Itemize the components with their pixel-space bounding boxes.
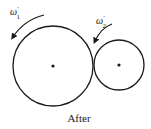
- omega2-label: ω′2: [96, 14, 107, 30]
- large-gear-center-dot: [51, 64, 54, 67]
- omega1-label: ω′1: [10, 5, 21, 21]
- small-gear-center-dot: [117, 63, 120, 66]
- caption-after: After: [67, 112, 91, 124]
- gear-diagram: ω′1 ω′2 After: [0, 0, 151, 129]
